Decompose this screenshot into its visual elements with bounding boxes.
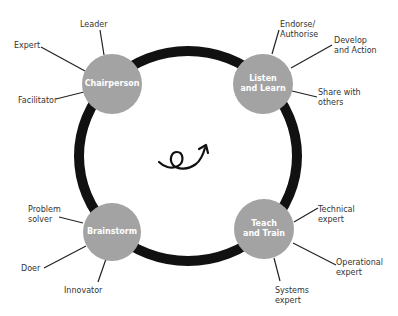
role-label: Systems expert (275, 286, 309, 305)
connector-line (41, 47, 85, 71)
connector-line (44, 246, 86, 268)
curly-arrow-icon (159, 145, 208, 169)
connector-line (56, 92, 84, 99)
role-label: Expert (14, 41, 40, 51)
role-label: Facilitator (18, 96, 57, 106)
node-title: Teach and Train (243, 219, 285, 239)
connector-line (274, 258, 280, 281)
connector-line (59, 217, 83, 223)
node-title: Listen and Learn (240, 74, 285, 94)
role-label: Innovator (64, 286, 102, 296)
connector-line (100, 30, 104, 55)
connector-line (272, 30, 279, 54)
node-title: Chairperson (85, 79, 140, 89)
role-label: Leader (80, 20, 107, 30)
connector-line (294, 208, 318, 222)
role-label: Technical expert (318, 205, 355, 224)
role-label: Endorse/ Authorise (280, 20, 318, 39)
connector-line (293, 243, 336, 265)
connector-line (292, 91, 317, 97)
role-label: Doer (21, 264, 40, 274)
role-label: Develop and Action (334, 36, 377, 55)
role-label: Share with others (318, 88, 361, 107)
node-title: Brainstorm (87, 227, 137, 237)
role-label: Operational expert (336, 258, 383, 277)
connector-line (291, 45, 332, 68)
role-label: Problem solver (28, 205, 61, 224)
connector-line (98, 259, 106, 282)
